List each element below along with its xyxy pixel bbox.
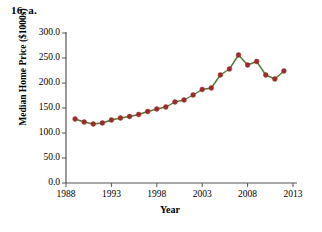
y-axis-tick-label-slot: 200.0 [16,77,60,89]
data-point-marker [127,114,132,119]
y-axis-tick-label: 100.0 [20,127,60,137]
series-line [75,55,284,124]
x-axis-tick-label: 2013 [271,189,315,199]
data-point-marker [282,69,287,74]
y-axis-title: Median Home Price ($1000s) [18,0,28,137]
y-axis-tick-label: 150.0 [20,102,60,112]
y-axis-tick-label-slot: 100.0 [16,127,60,139]
data-point-marker [145,109,150,114]
data-point-marker [136,112,141,117]
data-point-marker [154,107,159,112]
data-point-marker [91,122,96,127]
x-axis-tick-label: 1998 [135,189,179,199]
data-point-marker [236,53,241,58]
chart-plot-area: Median Home Price ($1000s) Year 0.050.01… [0,0,322,232]
data-point-marker [100,121,105,126]
y-axis-tick-label-slot: 50.0 [16,152,60,164]
y-axis-tick-label: 0.0 [20,177,60,187]
x-axis-tick-label: 1993 [89,189,133,199]
data-point-marker [227,67,232,72]
y-axis-tick-label-slot: 0.0 [16,177,60,189]
data-point-marker [73,117,78,122]
y-axis-tick-label-slot: 300.0 [16,27,60,39]
y-axis-tick-label: 250.0 [20,52,60,62]
data-point-marker [209,86,214,91]
x-axis-tick-label: 1988 [44,189,88,199]
data-point-marker [191,93,196,98]
data-point-marker [173,100,178,105]
x-axis-tick-label: 2003 [180,189,224,199]
data-point-marker [218,73,223,78]
data-point-marker [254,59,259,64]
data-series-group [73,53,287,127]
data-point-marker [263,73,268,78]
data-point-marker [245,63,250,68]
y-axis-tick-label: 50.0 [20,152,60,162]
figure-container: 16. a. Median Home Price ($1000s) Year 0… [0,0,322,232]
axes-group [62,32,297,187]
x-axis-title: Year [120,204,220,215]
y-axis-tick-label: 200.0 [20,77,60,87]
data-point-marker [200,87,205,92]
y-axis-tick-label: 300.0 [20,27,60,37]
y-axis-tick-label-slot: 250.0 [16,52,60,64]
data-point-marker [109,118,114,123]
x-axis-tick-label: 2008 [226,189,270,199]
data-point-marker [163,105,168,110]
data-point-marker [118,116,123,121]
data-point-marker [272,77,277,82]
y-axis-tick-label-slot: 150.0 [16,102,60,114]
data-point-marker [182,98,187,103]
data-point-marker [82,120,87,125]
